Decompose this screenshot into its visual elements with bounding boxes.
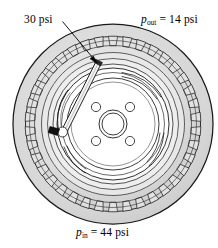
tire-diagram: [0, 0, 218, 248]
lug-hole: [91, 102, 100, 111]
gauge-reading-label: 30 psi: [24, 13, 53, 25]
lug-hole: [125, 102, 134, 111]
lug-hole: [125, 136, 134, 145]
pout-value: 14: [169, 13, 181, 25]
tire-pressure-figure: 30 psi pout = 14 psi pin = 44 psi: [0, 0, 218, 248]
lug-hole: [91, 136, 100, 145]
center-bore: [99, 110, 127, 138]
outside-pressure-label: pout = 14 psi: [141, 13, 198, 27]
pin-value: 44: [100, 226, 112, 238]
pout-unit: psi: [184, 13, 198, 25]
gauge-chuck: [58, 127, 68, 137]
inside-pressure-label: pin = 44 psi: [76, 226, 129, 240]
pout-subscript: out: [147, 18, 156, 27]
gauge-reading-text: 30 psi: [24, 13, 53, 25]
pin-unit: psi: [115, 226, 129, 238]
